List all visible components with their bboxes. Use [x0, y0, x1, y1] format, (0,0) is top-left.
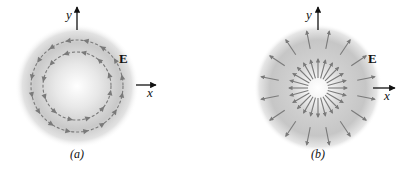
- x-axis-label: x: [383, 88, 390, 103]
- y-axis-label: y: [64, 7, 72, 22]
- panel-caption: (b): [311, 147, 325, 161]
- field-glow: [254, 24, 382, 152]
- y-axis-label: y: [304, 7, 312, 22]
- field-glow: [15, 24, 139, 148]
- panel-a-circulating-field: y E x (a): [15, 7, 156, 161]
- electric-field-figure: y E x (a) y E x (b): [0, 0, 406, 173]
- x-axis-label: x: [146, 85, 153, 100]
- panel-b-radial-field: y E x (b): [254, 7, 395, 161]
- panel-caption: (a): [70, 147, 84, 161]
- field-label-e: E: [119, 51, 128, 66]
- field-label-e: E: [368, 51, 377, 66]
